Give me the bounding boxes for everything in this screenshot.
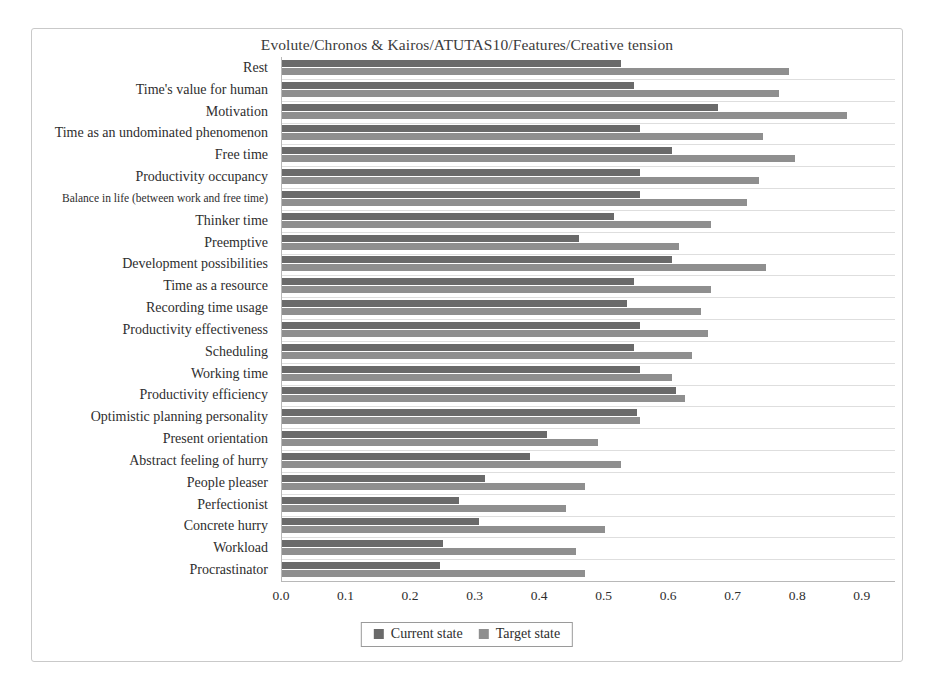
- bar-current-state: [282, 344, 634, 351]
- x-axis-tick-label: 0.3: [466, 588, 483, 604]
- gridline: [282, 428, 895, 429]
- x-axis-tick-label: 0.8: [789, 588, 806, 604]
- bar-current-state: [282, 169, 640, 176]
- gridline: [282, 319, 895, 320]
- bar-target-state: [282, 112, 847, 119]
- bar-target-state: [282, 505, 566, 512]
- y-axis-label: Abstract feeling of hurry: [129, 454, 268, 468]
- bar-target-state: [282, 526, 605, 533]
- x-axis-tick-label: 0.6: [660, 588, 677, 604]
- bar-current-state: [282, 453, 530, 460]
- legend-label: Current state: [391, 627, 463, 641]
- y-axis-label: Productivity occupancy: [135, 170, 268, 184]
- gridline: [282, 406, 895, 407]
- x-axis-tick-label: 0.5: [595, 588, 612, 604]
- bar-current-state: [282, 322, 640, 329]
- gridline: [282, 450, 895, 451]
- gridline: [282, 472, 895, 473]
- bar-current-state: [282, 278, 634, 285]
- x-axis-tick-label: 0.2: [402, 588, 419, 604]
- x-axis-tick-label: 0.1: [337, 588, 354, 604]
- bar-current-state: [282, 387, 676, 394]
- y-axis-label: Time as a resource: [163, 279, 268, 293]
- bar-target-state: [282, 374, 672, 381]
- legend-swatch-icon: [479, 629, 489, 639]
- y-axis-label: Balance in life (between work and free t…: [62, 193, 268, 205]
- y-axis-label: Concrete hurry: [184, 519, 268, 533]
- y-axis-label: Thinker time: [195, 214, 268, 228]
- bar-current-state: [282, 300, 627, 307]
- bar-current-state: [282, 497, 459, 504]
- bar-current-state: [282, 60, 621, 67]
- bar-target-state: [282, 68, 789, 75]
- bar-target-state: [282, 177, 759, 184]
- gridline: [282, 188, 895, 189]
- bar-target-state: [282, 417, 640, 424]
- x-axis-tick-label: 0.9: [853, 588, 870, 604]
- bar-target-state: [282, 90, 779, 97]
- bar-target-state: [282, 264, 766, 271]
- bar-current-state: [282, 540, 443, 547]
- legend-label: Target state: [496, 627, 560, 641]
- bar-target-state: [282, 570, 585, 577]
- y-axis-label: Motivation: [206, 105, 268, 119]
- y-axis-labels: RestTime's value for humanMotivationTime…: [41, 57, 272, 582]
- bar-current-state: [282, 409, 637, 416]
- bar-current-state: [282, 104, 718, 111]
- bar-target-state: [282, 395, 685, 402]
- y-axis-label: Productivity efficiency: [140, 388, 268, 402]
- bar-current-state: [282, 366, 640, 373]
- y-axis-label: Workload: [213, 541, 268, 555]
- gridline: [282, 494, 895, 495]
- bar-current-state: [282, 256, 672, 263]
- x-axis-tick-label: 0.0: [273, 588, 290, 604]
- bar-current-state: [282, 475, 485, 482]
- bar-target-state: [282, 439, 598, 446]
- plot-wrapper: RestTime's value for humanMotivationTime…: [41, 57, 895, 613]
- legend-swatch-icon: [374, 629, 384, 639]
- bar-target-state: [282, 548, 576, 555]
- y-axis-label: Time as an undominated phenomenon: [55, 126, 268, 140]
- plot-area: [281, 57, 895, 582]
- legend-item[interactable]: Current state: [374, 627, 463, 641]
- bar-target-state: [282, 221, 711, 228]
- x-axis-ticks: 0.00.10.20.30.40.50.60.70.80.9: [281, 584, 895, 610]
- legend-item[interactable]: Target state: [479, 627, 560, 641]
- y-axis-label: Present orientation: [163, 432, 268, 446]
- y-axis-label: Rest: [243, 61, 268, 75]
- gridline: [282, 144, 895, 145]
- bar-current-state: [282, 82, 634, 89]
- y-axis-label: Time's value for human: [136, 83, 268, 97]
- bar-target-state: [282, 352, 692, 359]
- bar-target-state: [282, 461, 621, 468]
- gridline: [282, 385, 895, 386]
- gridline: [282, 123, 895, 124]
- gridline: [282, 79, 895, 80]
- gridline: [282, 101, 895, 102]
- gridline: [282, 254, 895, 255]
- y-axis-label: Perfectionist: [197, 498, 268, 512]
- gridline: [282, 232, 895, 233]
- y-axis-label: Working time: [191, 367, 268, 381]
- bar-target-state: [282, 199, 747, 206]
- bar-target-state: [282, 133, 763, 140]
- bar-target-state: [282, 308, 701, 315]
- bar-current-state: [282, 562, 440, 569]
- bar-target-state: [282, 286, 711, 293]
- chart-card: Evolute/Chronos & Kairos/ATUTAS10/Featur…: [31, 28, 903, 662]
- bar-current-state: [282, 213, 614, 220]
- bar-current-state: [282, 147, 672, 154]
- bar-target-state: [282, 330, 708, 337]
- y-axis-label: Recording time usage: [146, 301, 268, 315]
- gridline: [282, 297, 895, 298]
- bar-current-state: [282, 431, 547, 438]
- chart-title: Evolute/Chronos & Kairos/ATUTAS10/Featur…: [32, 36, 902, 54]
- bar-target-state: [282, 155, 795, 162]
- bar-current-state: [282, 191, 640, 198]
- y-axis-label: Preemptive: [204, 236, 268, 250]
- gridline: [282, 210, 895, 211]
- y-axis-label: Free time: [215, 148, 268, 162]
- y-axis-label: Scheduling: [205, 345, 268, 359]
- x-axis-tick-label: 0.7: [724, 588, 741, 604]
- gridline: [282, 516, 895, 517]
